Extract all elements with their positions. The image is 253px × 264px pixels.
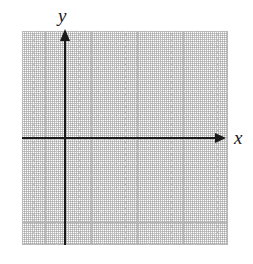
minor-gridline-horizontal xyxy=(22,139,228,140)
minor-gridline-horizontal xyxy=(22,43,228,44)
minor-gridline-horizontal xyxy=(22,233,228,234)
x-axis-line xyxy=(22,137,216,139)
y-axis-arrow-icon xyxy=(60,29,70,41)
x-axis-label: x xyxy=(234,128,242,147)
minor-gridline-horizontal xyxy=(22,187,228,188)
y-axis-label: y xyxy=(58,6,66,25)
coordinate-plane-figure: x y xyxy=(0,0,253,264)
y-axis-line xyxy=(64,40,66,245)
minor-gridline-horizontal xyxy=(22,211,228,212)
minor-gridline-horizontal xyxy=(22,67,228,68)
minor-gridline-horizontal xyxy=(22,163,228,164)
x-axis-arrow-icon xyxy=(215,133,226,143)
gridline-vertical xyxy=(227,31,228,245)
minor-gridline-horizontal xyxy=(22,91,228,92)
minor-gridline-horizontal xyxy=(22,115,228,116)
